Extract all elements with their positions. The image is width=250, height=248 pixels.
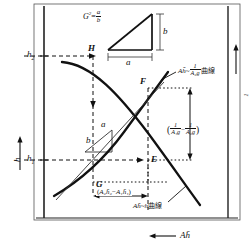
right-axis-label-num: 1 xyxy=(243,90,250,100)
span-term-2: A₁h̄₁ xyxy=(116,188,129,196)
point-label-H: H xyxy=(88,44,95,53)
curve-upper-frac-num: 1 xyxy=(190,63,201,70)
curve-label-upper: Ah̄~ 1 A₂g 曲線 xyxy=(178,63,215,77)
point-label-E: E xyxy=(151,155,157,164)
slope-formula-den: b xyxy=(96,17,102,24)
curve-upper-suffix: 曲線 xyxy=(201,67,215,75)
tick-label-h2: h2 xyxy=(27,50,34,61)
point-label-F: F xyxy=(140,77,146,86)
curve-lower-suffix: 曲線 xyxy=(148,202,162,210)
span-close: ) xyxy=(129,188,131,196)
inner-triangle-label-a: a xyxy=(101,120,106,129)
span-term-1: A₂h̄₂ xyxy=(99,188,112,196)
inner-triangle-label-b: b xyxy=(86,136,91,145)
ref-triangle-label-a: a xyxy=(126,58,131,67)
leader-curve-lower xyxy=(168,186,186,202)
ref-triangle-label-b: b xyxy=(163,27,168,36)
bracket-expression-right: ( 1 A₁g − 1 A₂g ) xyxy=(167,122,199,136)
curve-upper-frac-den: A₂g xyxy=(190,70,201,76)
projection-H-vertical xyxy=(90,56,96,196)
bracket-frac1-den: A₁g xyxy=(170,129,181,135)
right-axis-arrow xyxy=(233,44,238,74)
tick-label-h1: h1 xyxy=(27,154,34,165)
span-expression-bottom: (A₂h̄₂−A₁h̄₁) xyxy=(96,189,132,196)
x-axis-label: Ah̄ xyxy=(180,231,190,240)
y-axis-arrow xyxy=(17,136,22,170)
y-axis-label: h xyxy=(13,158,22,163)
x-axis-arrow xyxy=(149,233,176,238)
bracket-frac2-num: 1 xyxy=(185,122,196,129)
right-axis-label: 1 Ag xyxy=(243,90,250,100)
slope-formula: G2= a b xyxy=(83,9,101,24)
projection-h2 xyxy=(24,53,96,59)
curve-label-lower: Ah̄~h曲線 xyxy=(133,203,162,210)
reference-slope-triangle xyxy=(108,14,152,50)
figure-canvas xyxy=(0,0,250,248)
bracket-close: ) xyxy=(196,125,199,135)
bracket-frac1-num: 1 xyxy=(170,122,181,129)
bracket-frac2-den: A₂g xyxy=(185,129,196,135)
